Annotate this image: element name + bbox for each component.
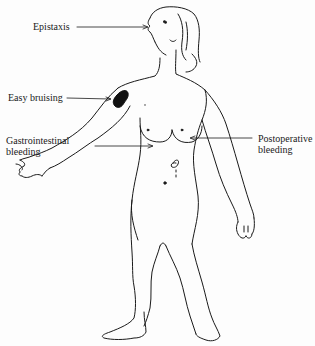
gastrointestinal-bleeding-line-1: Gastrointestinal [6, 135, 69, 146]
body-outline-figure [0, 0, 315, 346]
epistaxis-label: Epistaxis [33, 21, 70, 32]
easy-bruising-label: Easy bruising [8, 92, 63, 103]
bleeding-sites-diagram: Epistaxis Easy bruising Gastrointestinal… [0, 0, 315, 346]
postoperative-bleeding-label: Postoperative bleeding [258, 133, 312, 155]
easy-bruising-arrow [67, 98, 110, 99]
gastrointestinal-bleeding-label: Gastrointestinal bleeding [6, 135, 69, 157]
head [148, 7, 200, 72]
bruise-mark [113, 91, 128, 108]
legs [102, 200, 220, 341]
right-arm [202, 90, 254, 238]
gastrointestinal-bleeding-line-2: bleeding [6, 146, 69, 157]
postoperative-bleeding-line-2: bleeding [258, 144, 312, 155]
postoperative-bleeding-line-1: Postoperative [258, 133, 312, 144]
leader-arrows [67, 25, 252, 148]
